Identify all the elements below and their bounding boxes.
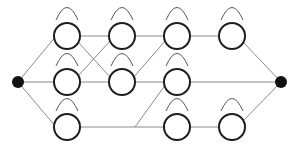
self-loop-arc [166, 8, 188, 21]
sink-node [275, 76, 287, 88]
edge-line [18, 82, 56, 127]
self-loop-arc [56, 99, 78, 112]
edge-line [18, 36, 56, 82]
edge-line [243, 82, 281, 121]
self-loop-arc [166, 99, 188, 112]
node-n13 [54, 114, 80, 140]
self-loop-arc [166, 54, 188, 67]
edge-line [243, 42, 281, 82]
edge-line [78, 42, 111, 78]
self-loop-arc [111, 8, 133, 21]
self-loop-arc [56, 8, 78, 21]
self-loop-arc [221, 8, 243, 21]
self-loop-arc [111, 54, 133, 67]
self-loop-arc [221, 99, 243, 112]
node-n41 [219, 23, 245, 49]
edge-line [78, 40, 111, 76]
node-n12 [54, 69, 80, 95]
node-n22 [109, 69, 135, 95]
node-n32 [164, 69, 190, 95]
node-n21 [109, 23, 135, 49]
edge-line [135, 84, 166, 127]
edge-line [133, 40, 166, 78]
source-node [12, 76, 24, 88]
node-n33 [164, 114, 190, 140]
node-n43 [219, 114, 245, 140]
self-loop-arc [56, 54, 78, 67]
layered-graph-diagram [0, 0, 296, 151]
node-n11 [54, 23, 80, 49]
node-n31 [164, 23, 190, 49]
